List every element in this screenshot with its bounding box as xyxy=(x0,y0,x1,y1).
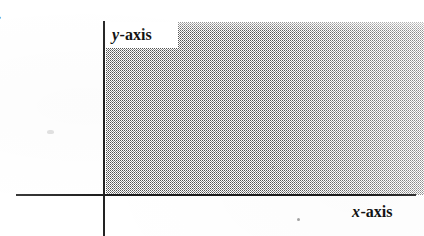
x-axis-label: x-axis xyxy=(352,204,393,220)
list-item-label: ). xyxy=(0,2,2,23)
y-axis-line xyxy=(103,21,105,236)
y-axis-label-suffix: -axis xyxy=(120,26,152,43)
x-axis-label-suffix: -axis xyxy=(361,203,393,220)
coordinate-axes-figure: ). y-axis x-axis xyxy=(0,0,424,236)
x-axis-line xyxy=(16,194,416,196)
y-axis-label: y-axis xyxy=(112,27,152,43)
y-axis-variable-glyph: y xyxy=(112,26,120,43)
scan-speck xyxy=(272,166,274,168)
scan-speck xyxy=(297,218,300,221)
x-axis-variable-glyph: x xyxy=(352,203,361,220)
scan-smudge xyxy=(47,130,54,134)
